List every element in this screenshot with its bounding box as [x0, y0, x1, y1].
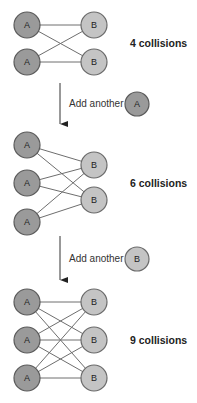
collisions-label: 9 collisions: [130, 334, 187, 346]
svg-text:A: A: [24, 20, 30, 30]
stage-1: A A B B 4 collisions: [14, 12, 187, 75]
add-another-label: Add another: [69, 98, 124, 109]
node-a: A: [14, 170, 40, 196]
collisions-label: 4 collisions: [130, 37, 187, 49]
svg-text:B: B: [91, 57, 97, 67]
svg-text:B: B: [91, 20, 97, 30]
svg-text:B: B: [91, 335, 97, 345]
collisions-label: 6 collisions: [130, 177, 187, 189]
svg-text:A: A: [24, 57, 30, 67]
node-b: B: [81, 365, 107, 391]
node-b: B: [81, 49, 107, 75]
node-a: A: [14, 327, 40, 353]
node-a: A: [14, 289, 40, 315]
node-b: B: [81, 187, 107, 213]
node-a: A: [14, 365, 40, 391]
stage-2: A A A B B 6 collisions: [14, 132, 187, 235]
node-a: A: [14, 49, 40, 75]
svg-text:B: B: [91, 297, 97, 307]
transition-add-a: Add another A: [60, 83, 149, 124]
transition-add-b: Add another B: [60, 236, 149, 280]
collision-diagram: A A B B 4 collisions Add another A A A A…: [0, 0, 197, 403]
node-b: B: [81, 152, 107, 178]
node-a: A: [125, 92, 149, 116]
node-b: B: [81, 327, 107, 353]
svg-text:A: A: [24, 335, 30, 345]
svg-text:A: A: [24, 140, 30, 150]
node-a: A: [14, 12, 40, 38]
svg-text:A: A: [134, 99, 140, 109]
svg-text:A: A: [24, 373, 30, 383]
svg-text:A: A: [24, 297, 30, 307]
node-a: A: [14, 132, 40, 158]
svg-text:B: B: [91, 373, 97, 383]
svg-text:A: A: [24, 217, 30, 227]
node-b: B: [81, 12, 107, 38]
add-another-label: Add another: [69, 253, 124, 264]
stage-3: A A A B B B 9 collisions: [14, 289, 187, 391]
svg-text:B: B: [91, 195, 97, 205]
svg-text:B: B: [91, 160, 97, 170]
node-b: B: [125, 247, 149, 271]
svg-text:A: A: [24, 178, 30, 188]
node-b: B: [81, 289, 107, 315]
svg-text:B: B: [134, 254, 140, 264]
node-a: A: [14, 209, 40, 235]
